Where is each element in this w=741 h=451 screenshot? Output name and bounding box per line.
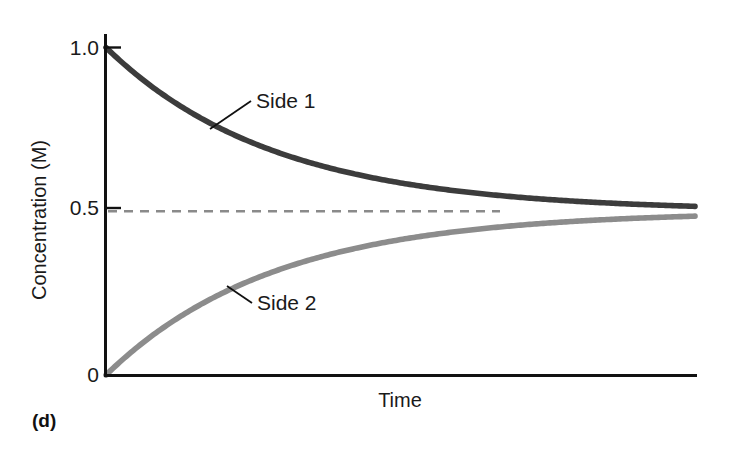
- figure-panel: 1.0 0.5 0 Concentration (M) Time Side 1 …: [0, 0, 741, 451]
- series-label-side-1: Side 1: [256, 89, 316, 112]
- x-axis-title: Time: [378, 389, 422, 411]
- y-tick-label-0.5: 0.5: [70, 196, 99, 219]
- series-label-side-2: Side 2: [257, 291, 317, 314]
- concentration-vs-time-chart: 1.0 0.5 0 Concentration (M) Time Side 1 …: [0, 0, 741, 451]
- chart-background: [0, 0, 741, 451]
- panel-label: (d): [32, 410, 56, 431]
- y-tick-label-1.0: 1.0: [70, 36, 99, 59]
- y-axis-title: Concentration (M): [28, 140, 50, 300]
- y-tick-label-0: 0: [87, 363, 99, 386]
